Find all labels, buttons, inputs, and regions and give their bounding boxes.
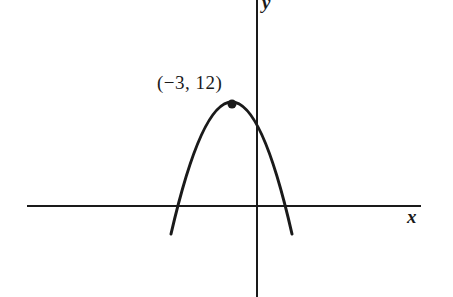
y-axis-label: y (262, 0, 270, 14)
parabola-curve (171, 102, 292, 234)
graph-canvas (0, 0, 453, 297)
vertex-label: (−3, 12) (157, 72, 222, 94)
x-axis-label: x (407, 206, 417, 228)
vertex-point (228, 100, 237, 109)
